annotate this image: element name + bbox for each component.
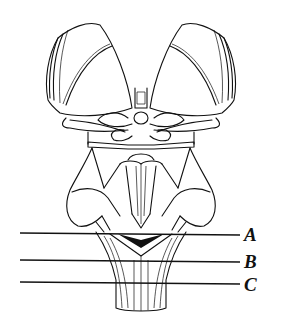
label-a: A [243, 224, 257, 245]
label-c: C [244, 274, 257, 295]
midbrain [63, 112, 220, 160]
pineal-region [135, 88, 147, 108]
medulla [96, 232, 186, 311]
level-line-b [20, 260, 240, 262]
level-line-a [20, 233, 240, 235]
right-hemisphere [150, 23, 236, 115]
level-line-c [20, 282, 240, 284]
left-hemisphere [46, 23, 132, 115]
brainstem-diagram: A B C [0, 0, 282, 335]
pons-peduncles [67, 148, 216, 232]
label-b: B [243, 251, 257, 272]
